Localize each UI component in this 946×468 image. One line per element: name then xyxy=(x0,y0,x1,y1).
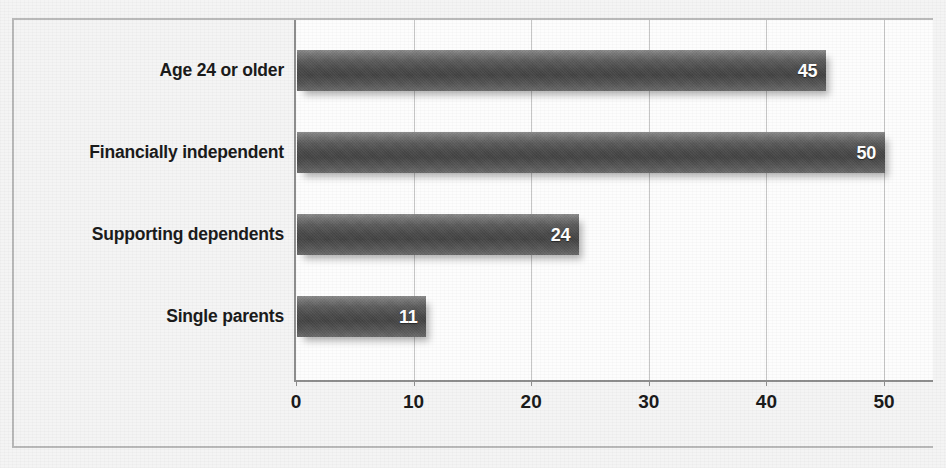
bar-2: 24 xyxy=(297,214,579,255)
x-tick-label-50: 50 xyxy=(854,392,914,411)
bar-1: 50 xyxy=(297,132,885,173)
y-axis-line xyxy=(294,20,296,382)
category-label-0: Age 24 or older xyxy=(14,62,284,80)
bar-fill-2 xyxy=(297,214,579,255)
category-label-3: Single parents xyxy=(14,308,284,326)
bar-value-label-0: 45 xyxy=(798,62,817,80)
bar-fill-1 xyxy=(297,132,885,173)
category-label-2: Supporting dependents xyxy=(14,226,284,244)
bar-chart-figure: Age 24 or olderFinancially independentSu… xyxy=(0,0,946,468)
x-tick-label-40: 40 xyxy=(736,392,796,411)
x-tick-label-10: 10 xyxy=(384,392,444,411)
bar-0: 45 xyxy=(297,50,826,91)
bar-value-label-2: 24 xyxy=(551,226,570,244)
x-axis-line xyxy=(294,380,933,382)
category-label-1: Financially independent xyxy=(14,144,284,162)
x-tick-label-30: 30 xyxy=(619,392,679,411)
bar-3: 11 xyxy=(297,296,426,337)
frame-bottom-rule xyxy=(12,446,933,448)
x-tick-label-20: 20 xyxy=(501,392,561,411)
bar-fill-0 xyxy=(297,50,826,91)
x-tick-label-0: 0 xyxy=(266,392,326,411)
bar-value-label-1: 50 xyxy=(857,144,876,162)
gridline-50 xyxy=(884,20,885,380)
bar-value-label-3: 11 xyxy=(399,308,417,326)
